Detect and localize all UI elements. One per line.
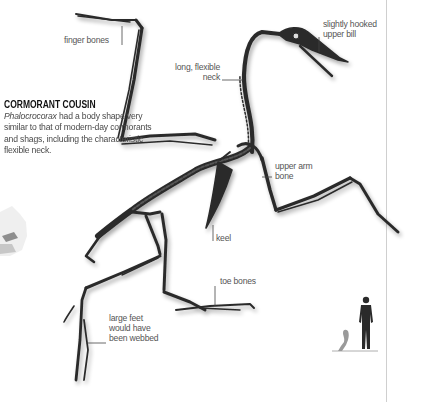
- scale-diagram: [332, 297, 378, 351]
- partial-skull-image: [0, 206, 27, 256]
- label-upper-arm-bone: upper arm bone: [275, 162, 312, 182]
- skeleton-illustration: [0, 0, 421, 402]
- human-silhouette-icon: [359, 297, 373, 349]
- cormorant-silhouette-icon: [338, 330, 349, 351]
- encyclopedia-page: CORMORANT COUSIN Phalocrocorax had a bod…: [0, 0, 421, 402]
- label-upper-bill: slightly hooked upper bill: [323, 20, 377, 40]
- label-toe-bones: toe bones: [220, 277, 256, 287]
- sidebar-heading: CORMORANT COUSIN: [4, 99, 132, 110]
- sidebar-body: Phalocrocorax had a body shape very simi…: [4, 110, 156, 155]
- cormorant-cousin-sidebar: CORMORANT COUSIN Phalocrocorax had a bod…: [4, 99, 154, 155]
- label-keel: keel: [216, 234, 231, 244]
- genus-name: Phalocrocorax: [4, 110, 57, 121]
- label-finger-bones: finger bones: [64, 36, 109, 46]
- label-webbed-feet: large feet would have been webbed: [109, 314, 158, 343]
- label-neck: long, flexible neck: [168, 63, 220, 83]
